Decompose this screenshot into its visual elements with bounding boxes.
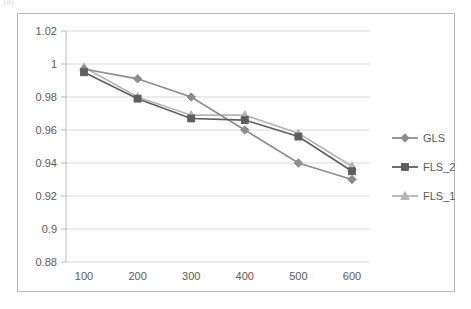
clipped-caption-artifact: (a) [3,0,43,6]
y-axis-tick-label: 1.02 [36,25,57,37]
data-point-marker [187,93,195,101]
y-axis-tick-label: 1 [51,58,57,70]
x-axis-tick-label: 300 [182,270,200,282]
legend-label: GLS [423,132,445,144]
data-point-marker [348,175,356,183]
x-axis-tick-label: 100 [75,270,93,282]
data-point-marker [133,75,141,83]
legend-label: FLS_2 [423,161,455,173]
y-axis-tick-label: 0.9 [42,223,57,235]
data-point-marker [349,168,356,175]
legend-item-FLS_1[interactable]: FLS_1 [392,190,455,202]
chart-frame: 0.880.90.920.940.960.9811.02100200300400… [17,13,455,292]
x-axis-tick-label: 600 [343,270,361,282]
series-FLS_2 [81,69,356,175]
x-axis-tick-label: 400 [236,270,254,282]
legend-label: FLS_1 [423,190,455,202]
series-FLS_1 [80,63,356,170]
x-axis-tick-label: 200 [128,270,146,282]
x-axis-tick-label: 500 [289,270,307,282]
y-axis-tick-label: 0.98 [36,91,57,103]
y-axis-tick-label: 0.92 [36,190,57,202]
y-axis-tick-label: 0.94 [36,157,57,169]
line-chart: 0.880.90.920.940.960.9811.02100200300400… [18,14,456,293]
data-point-marker [401,134,409,142]
data-point-marker [241,126,249,134]
legend-item-GLS[interactable]: GLS [392,132,445,144]
series-line [84,67,352,166]
data-point-marker [402,164,409,171]
data-point-marker [294,159,302,167]
data-point-marker [241,117,248,124]
y-axis-tick-label: 0.88 [36,256,57,268]
y-axis-tick-label: 0.96 [36,124,57,136]
series-line [84,72,352,171]
series-GLS [80,65,356,184]
data-point-marker [188,115,195,122]
data-point-marker [295,133,302,140]
data-point-marker [134,95,141,102]
legend-item-FLS_2[interactable]: FLS_2 [392,161,455,173]
data-point-marker [81,69,88,76]
